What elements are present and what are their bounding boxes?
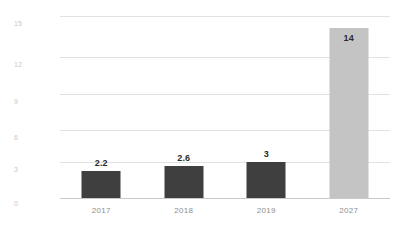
x-axis-label-2017: 2017 <box>92 206 111 215</box>
bar-value-2018: 2.6 <box>177 153 190 163</box>
bar-value-2019: 3 <box>264 149 269 159</box>
x-axis-label-2018: 2018 <box>174 206 193 215</box>
bar-2018[interactable]: 2.6 <box>164 166 203 198</box>
y-axis-tick-9: 9 <box>14 98 54 106</box>
bar-chart: 15 12 9 6 3 0 2.2 2017 2.6 2018 <box>0 0 410 238</box>
y-axis-tick-0: 0 <box>14 200 54 208</box>
x-axis-label-2019: 2019 <box>257 206 276 215</box>
bar-group-2019: 3 2019 <box>225 0 308 238</box>
plot-area: 15 12 9 6 3 0 2.2 2017 2.6 2018 <box>0 0 410 238</box>
bar-value-2017: 2.2 <box>95 158 108 168</box>
y-axis-tick-6: 6 <box>14 134 54 142</box>
bar-2019[interactable]: 3 <box>247 162 286 198</box>
bar-group-2018: 2.6 2018 <box>143 0 226 238</box>
y-axis-tick-12: 12 <box>14 61 54 69</box>
bar-value-2027: 14 <box>344 33 354 43</box>
y-axis-tick-3: 3 <box>14 166 54 174</box>
bar-2027[interactable]: 14 <box>329 28 368 198</box>
bar-series: 2.2 2017 2.6 2018 3 2019 14 20 <box>60 0 390 238</box>
x-axis-label-2027: 2027 <box>339 206 358 215</box>
bar-2017[interactable]: 2.2 <box>82 171 121 198</box>
bar-group-2027: 14 2027 <box>308 0 391 238</box>
bar-group-2017: 2.2 2017 <box>60 0 143 238</box>
y-axis-tick-15: 15 <box>14 20 54 28</box>
